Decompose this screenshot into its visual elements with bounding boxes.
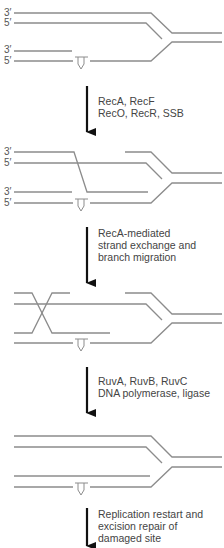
stage-strand-invasion: 3′ 5′ 3′ 5′ [4, 146, 222, 211]
parental-strand-bottom [14, 323, 222, 343]
step-label: excision repair of [98, 520, 177, 532]
thymine-dimer-icon [75, 199, 88, 211]
strand-label-5prime: 5′ [4, 157, 12, 168]
nascent-strand-top [14, 304, 162, 320]
crossover-strand-a [14, 293, 110, 333]
invading-strand [14, 152, 148, 192]
parental-strand-bottom [14, 467, 222, 487]
strand-label-3prime: 3′ [4, 146, 12, 157]
step-label: RecO, RecR, SSB [98, 107, 184, 119]
parental-strand-bottom [14, 183, 222, 203]
step-label: strand exchange and [98, 239, 196, 251]
stage-stalled-fork: 3′ 5′ 3′ 5′ [4, 7, 222, 69]
stage-resolved-fork [14, 436, 222, 495]
step-label: Replication restart and [98, 508, 203, 520]
nascent-strand-top [14, 163, 162, 179]
stage-holliday-junction [14, 293, 222, 351]
recombination-repair-diagram: 3′ 5′ 3′ 5′ RecA, RecF RecO, RecR, SSB 3… [0, 0, 224, 548]
step-label: branch migration [98, 251, 176, 263]
strand-label-5prime: 5′ [4, 17, 12, 28]
crossover-strand-b [14, 293, 70, 333]
step-label: RuvA, RuvB, RuvC [98, 375, 188, 387]
nascent-strand-top [14, 447, 162, 463]
thymine-dimer-icon [75, 57, 88, 69]
nascent-strand-top [14, 23, 162, 39]
thymine-dimer-icon [75, 483, 88, 495]
strand-label-3prime: 3′ [4, 44, 12, 55]
step-label: RecA-mediated [98, 227, 171, 239]
strand-label-5prime: 5′ [4, 55, 12, 66]
strand-label-5prime: 5′ [4, 197, 12, 208]
step-label: damaged site [98, 532, 161, 544]
strand-label-3prime: 3′ [4, 186, 12, 197]
step-label: RecA, RecF [98, 95, 155, 107]
thymine-dimer-icon [75, 339, 88, 351]
step-label: DNA polymerase, ligase [98, 387, 210, 399]
